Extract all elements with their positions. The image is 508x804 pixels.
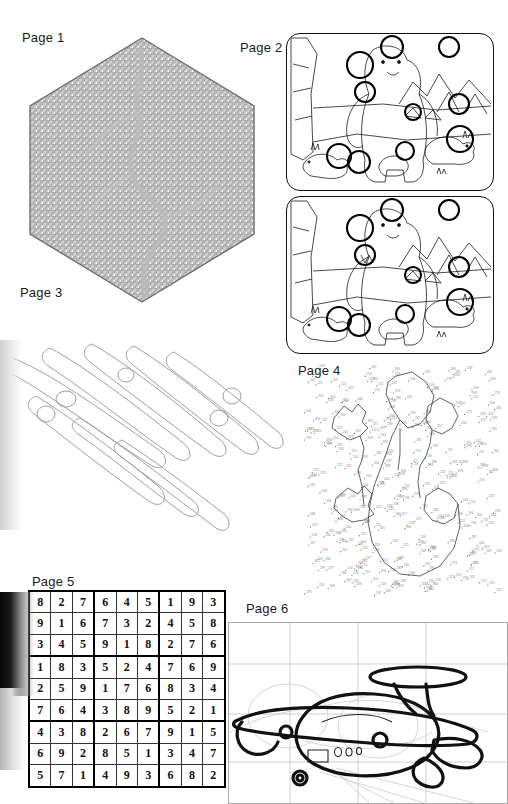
sudoku-cell: 6 [29, 743, 51, 764]
dot-number-label: 295 [416, 438, 422, 442]
dot-number-label: 229 [469, 552, 475, 556]
dot-number-label: 227 [312, 523, 318, 527]
dot-number-label: 258 [467, 366, 473, 370]
sudoku-cell: 6 [94, 591, 116, 613]
sudoku-row: 183524769 [29, 656, 225, 678]
dot-number-label: 201 [407, 395, 413, 399]
dot-number-label: 221 [344, 398, 350, 402]
dot-number-label: 230 [314, 372, 320, 376]
dot-number-label: 280 [341, 571, 347, 575]
dot-number-label: 214 [353, 455, 359, 459]
sudoku-cell: 3 [29, 634, 51, 656]
dot-number-label: 299 [363, 455, 369, 459]
dot-number-label: 243 [321, 489, 327, 493]
dot-number-label: 270 [473, 561, 479, 565]
sudoku-cell: 4 [72, 699, 94, 721]
dot-number-label: 268 [393, 502, 399, 506]
dot-number-label: 298 [467, 444, 473, 448]
dot-number-label: 287 [471, 535, 477, 539]
sudoku-grid: 8276451939167324583459182761835247692591… [28, 590, 226, 788]
dot-number-label: 228 [489, 494, 495, 498]
dot-number-label: 285 [325, 557, 331, 561]
sudoku-cell: 6 [72, 613, 94, 634]
dot-number-label: 220 [376, 505, 382, 509]
dot-number-label: 252 [351, 449, 357, 453]
dot-number-label: 291 [337, 443, 343, 447]
dot-number-label: 223 [414, 492, 420, 496]
dot-number-label: 298 [385, 464, 391, 468]
sudoku-cell: 9 [94, 634, 116, 656]
sudoku-cell: 6 [181, 656, 202, 678]
sudoku-cell: 3 [94, 699, 116, 721]
dot-number-label: 254 [315, 417, 321, 421]
dot-number-label: 263 [488, 412, 494, 416]
dot-number-label: 212 [372, 428, 378, 432]
dot-number-label: 285 [333, 505, 339, 509]
dot-number-label: 244 [381, 433, 387, 437]
dot-number-label: 235 [491, 427, 497, 431]
dot-number-label: 255 [375, 543, 381, 547]
dot-number-label: 274 [353, 571, 359, 575]
dot-number-label: 258 [421, 535, 427, 539]
page-4-connect-the-dots: 2192522322382062012322162582062712282662… [300, 362, 500, 600]
dot-number-label: 228 [319, 364, 325, 368]
dot-number-label: 211 [470, 500, 475, 504]
sudoku-cell: 3 [137, 765, 159, 787]
dot-number-label: 229 [496, 588, 502, 592]
dot-number-label: 300 [490, 401, 496, 405]
sudoku-cell: 7 [116, 678, 137, 699]
sudoku-row: 345918276 [29, 634, 225, 656]
dot-number-label: 246 [310, 483, 316, 487]
dot-number-label: 216 [358, 566, 364, 570]
dot-number-label: 248 [421, 549, 427, 553]
dot-number-label: 254 [374, 461, 380, 465]
dot-number-label: 239 [306, 436, 312, 440]
sudoku-cell: 9 [72, 678, 94, 699]
dot-number-label: 290 [496, 406, 502, 410]
sudoku-cell: 4 [159, 613, 181, 634]
dot-number-label: 202 [361, 532, 367, 536]
dot-number-label: 242 [384, 477, 390, 481]
sudoku-cell: 8 [29, 591, 51, 613]
dot-number-label: 248 [310, 512, 316, 516]
dot-number-label: 280 [396, 512, 402, 516]
dot-number-label: 220 [381, 582, 387, 586]
dot-number-label: 290 [396, 396, 402, 400]
dot-number-label: 296 [402, 487, 408, 491]
dot-number-label: 273 [320, 471, 326, 475]
dot-number-label: 244 [477, 513, 483, 517]
dot-number-label: 283 [487, 370, 493, 374]
dot-number-label: 297 [437, 424, 443, 428]
sudoku-row: 438267915 [29, 721, 225, 743]
sudoku-cell: 8 [137, 634, 159, 656]
dot-number-label: 230 [387, 422, 393, 426]
dot-number-label: 260 [494, 449, 500, 453]
sudoku-cell: 1 [72, 765, 94, 787]
dot-number-label: 255 [404, 563, 410, 567]
dot-number-label: 221 [317, 381, 323, 385]
sudoku-cell: 5 [51, 678, 72, 699]
dot-number-label: 206 [330, 584, 336, 588]
dot-number-label: 247 [415, 416, 421, 420]
dot-number-label: 212 [375, 388, 381, 392]
dot-number-label: 297 [380, 426, 386, 430]
dot-number-label: 202 [469, 575, 475, 579]
dot-number-label: 275 [494, 391, 500, 395]
sudoku-cell: 1 [94, 678, 116, 699]
dot-number-label: 238 [356, 582, 362, 586]
sudoku-cell: 8 [203, 613, 225, 634]
dot-number-label: 267 [387, 459, 393, 463]
dot-number-label: 253 [455, 373, 461, 377]
dot-number-label: 293 [395, 389, 401, 393]
sudoku-cell: 1 [159, 591, 181, 613]
dot-number-label: 227 [387, 504, 393, 508]
dot-number-label: 295 [339, 447, 345, 451]
sudoku-row: 827645193 [29, 591, 225, 613]
dot-number-label: 279 [481, 418, 487, 422]
dot-number-label: 246 [357, 397, 363, 401]
sudoku-cell: 6 [116, 721, 137, 743]
sudoku-cell: 4 [94, 765, 116, 787]
sudoku-cell: 4 [29, 721, 51, 743]
dot-number-label: 237 [483, 518, 489, 522]
dot-number-label: 201 [373, 577, 379, 581]
